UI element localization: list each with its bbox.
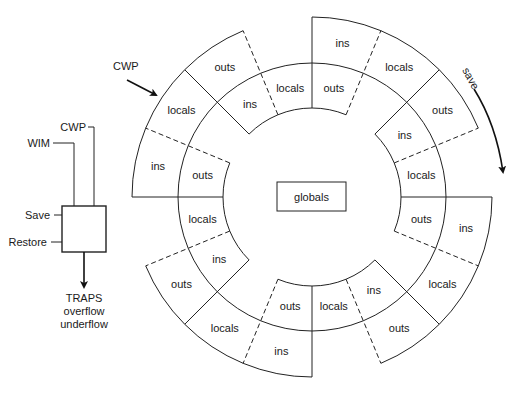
window-cell-outs: outs [432,104,453,116]
window-cell-ins: ins [212,253,227,265]
window-cell-outs: outs [280,300,301,312]
save-direction-label: save [460,65,482,91]
outer-arc [439,266,478,324]
window-cell-locals: locals [428,278,457,290]
inner-arc [230,231,249,260]
inner-arc [223,163,230,197]
window-cell-locals: locals [167,104,196,116]
window-cell-ins: ins [151,160,166,172]
window-boundary [375,70,439,134]
inner-arc [223,197,230,231]
window-overlap-boundary [394,231,478,266]
restore-input-label: Restore [8,236,47,248]
window-boundary [185,70,249,134]
window-cell-locals: locals [385,61,414,73]
inner-arc [394,197,401,231]
window-cell-locals: locals [276,82,305,94]
window-boundary [375,260,439,324]
window-overlap-boundary [243,279,278,363]
window-cell-ins: ins [243,98,258,110]
window-boundary [185,260,249,324]
inner-arc [394,163,401,197]
window-overlap-boundary [146,128,230,163]
window-cell-locals: locals [189,213,218,225]
inner-arc [346,260,375,279]
save-direction: save [460,65,503,172]
window-cell-ins: ins [274,345,289,357]
wim-input-label: WIM [27,137,50,149]
cwp-pointer-label: CWP [113,60,139,72]
outer-arc [478,197,492,266]
inner-arc [312,108,346,115]
control-block: CWP WIM Save Restore TRAPS overflow unde… [8,121,107,330]
outer-arc [312,17,381,31]
window-cell-locals: locals [211,322,240,334]
window-cell-outs: outs [192,169,213,181]
underflow-label: underflow [60,318,108,330]
save-input-label: Save [25,209,50,221]
window-cell-locals: locals [407,169,436,181]
window-cell-outs: outs [411,213,432,225]
window-cell-locals: locals [320,300,349,312]
inner-arc [278,279,312,286]
register-window-diagram: insoutslocalsoutsinslocalsinsoutslocalso… [0,0,524,399]
window-cell-ins: ins [367,284,382,296]
cwp-pointer: CWP [113,60,156,95]
inner-arc [278,108,312,115]
cwp-arrow-icon [127,80,156,95]
globals-label: globals [294,191,329,203]
window-overlap-boundary [346,31,381,115]
window-cell-ins: ins [336,37,351,49]
window-cell-outs: outs [171,278,192,290]
inner-arc [312,279,346,286]
inner-arc [249,115,278,134]
globals-box: globals [277,182,346,211]
outer-arc [243,363,312,377]
traps-label: TRAPS [66,292,103,304]
save-arrow-icon [474,89,503,172]
window-cell-outs: outs [214,61,235,73]
window-cell-ins: ins [398,129,413,141]
window-cell-outs: outs [323,82,344,94]
cwp-input-label: CWP [60,121,86,133]
overflow-label: overflow [64,305,105,317]
inner-arc [375,134,394,163]
window-cell-ins: ins [459,222,474,234]
outer-arc [146,266,185,324]
outer-arc [146,70,185,128]
outer-arc [132,128,146,197]
window-cell-outs: outs [389,322,410,334]
